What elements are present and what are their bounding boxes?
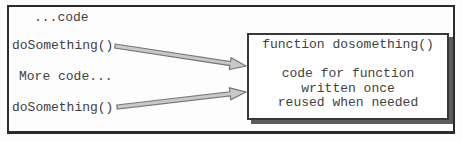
- function-signature: function dosomething(): [249, 38, 447, 53]
- function-call-diagram: { "diagram": { "code_column": { "lines":…: [0, 0, 462, 141]
- code-snippet-more: More code...: [19, 69, 113, 84]
- blank-line: [249, 53, 447, 68]
- function-note-3: reused when needed: [249, 96, 447, 111]
- function-note-2: written once: [249, 82, 447, 97]
- code-snippet-top: ...code: [34, 10, 89, 25]
- function-call-1: doSomething(): [12, 38, 113, 53]
- function-definition-box: function dosomething() code for function…: [247, 33, 449, 120]
- function-note-1: code for function: [249, 67, 447, 82]
- function-call-2: doSomething(): [12, 100, 113, 115]
